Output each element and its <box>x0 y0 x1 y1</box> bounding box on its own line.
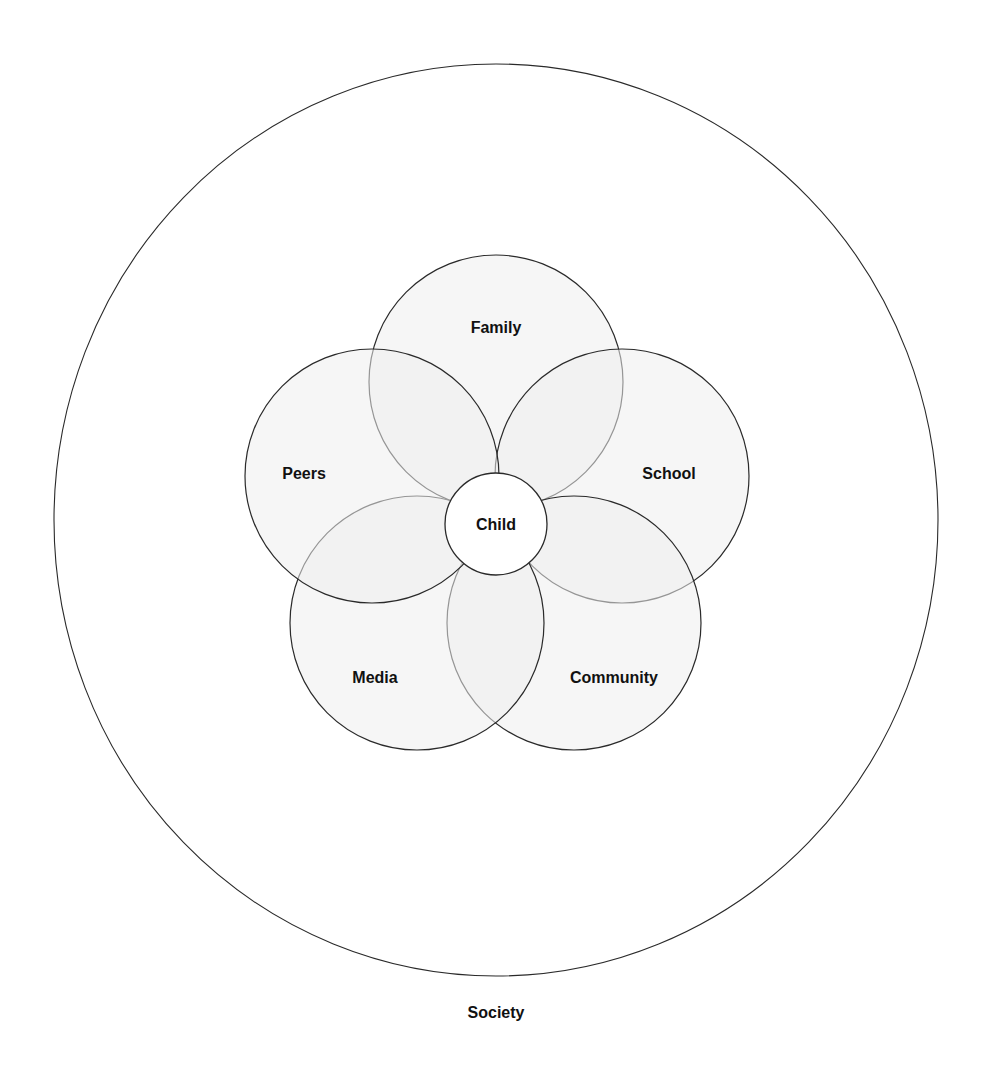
peers-label: Peers <box>282 465 326 482</box>
school-label: School <box>642 465 695 482</box>
social-ecology-diagram: Family School Community Media Peers Chil… <box>0 0 982 1066</box>
media-label: Media <box>352 669 397 686</box>
family-label: Family <box>471 319 522 336</box>
child-label: Child <box>476 516 516 533</box>
community-label: Community <box>570 669 658 686</box>
society-label: Society <box>468 1004 525 1021</box>
